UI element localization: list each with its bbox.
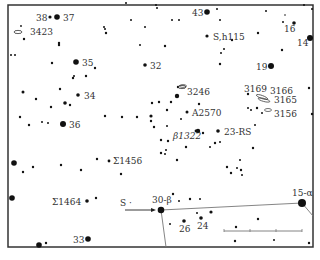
star-icon xyxy=(198,103,200,105)
star-icon xyxy=(169,223,171,225)
object-3165: 3165 xyxy=(274,95,297,105)
star-icon xyxy=(96,158,98,160)
star-icon xyxy=(121,116,123,118)
star-icon xyxy=(172,193,174,195)
star-icon xyxy=(130,19,132,21)
object-label: 43 xyxy=(192,8,204,18)
star-icon xyxy=(54,14,60,20)
star-icon xyxy=(281,49,283,51)
star-icon xyxy=(85,199,89,203)
star-icon xyxy=(216,8,218,10)
star-icon xyxy=(199,216,203,220)
star-icon xyxy=(165,149,167,151)
star-icon xyxy=(236,167,238,169)
star-icon xyxy=(178,19,180,21)
star-icon xyxy=(51,62,53,64)
star-icon xyxy=(125,2,127,4)
star-icon xyxy=(250,109,252,111)
star-icon xyxy=(85,236,91,242)
star-icon xyxy=(85,75,87,77)
star-icon xyxy=(160,139,162,141)
star-icon xyxy=(94,67,96,69)
star-icon xyxy=(120,173,122,175)
star-icon xyxy=(265,10,267,12)
star-icon xyxy=(153,126,155,128)
star-icon xyxy=(235,226,237,228)
star-icon xyxy=(28,124,30,126)
star-icon xyxy=(10,54,12,56)
star-icon xyxy=(14,54,16,56)
star-icon xyxy=(48,15,51,18)
star-icon xyxy=(9,195,15,201)
star-icon xyxy=(234,240,236,242)
star-icon xyxy=(144,26,146,28)
star-icon xyxy=(58,42,60,44)
star-icon xyxy=(257,218,259,220)
star-icon xyxy=(23,38,25,40)
star-icon xyxy=(155,4,157,6)
object-label: A2570 xyxy=(191,108,222,118)
star-icon xyxy=(47,122,49,124)
star-icon xyxy=(50,106,52,108)
object-label: 32 xyxy=(150,61,161,71)
star-icon xyxy=(303,4,305,6)
star-icon xyxy=(273,239,275,241)
star-icon xyxy=(209,146,211,148)
star-icon xyxy=(226,166,228,168)
star-icon xyxy=(311,8,313,10)
star-icon xyxy=(268,63,274,69)
star-icon xyxy=(308,242,310,244)
star-icon xyxy=(76,93,80,97)
star-icon xyxy=(95,197,97,199)
star-icon xyxy=(72,77,74,79)
star-icon xyxy=(20,25,22,27)
star-icon xyxy=(230,172,232,174)
star-icon xyxy=(241,174,243,176)
object-label: 24 xyxy=(197,221,209,231)
object-label: β1322 xyxy=(172,131,201,141)
star-icon xyxy=(196,212,198,214)
star-icon xyxy=(73,59,79,65)
object-label: 14 xyxy=(297,38,309,48)
star-icon xyxy=(219,19,221,21)
star-icon xyxy=(202,132,204,134)
star-icon xyxy=(41,121,43,123)
star-icon xyxy=(22,91,25,94)
star-icon xyxy=(189,198,191,200)
object-label: 35 xyxy=(82,58,94,68)
star-icon xyxy=(176,159,178,161)
star-icon xyxy=(139,44,141,46)
star-icon xyxy=(209,210,212,213)
star-icon xyxy=(149,114,152,117)
star-icon xyxy=(166,125,168,127)
object-label: S · xyxy=(120,198,132,208)
star-icon xyxy=(170,101,172,103)
star-icon xyxy=(22,171,24,173)
star-icon xyxy=(284,14,286,16)
star-icon xyxy=(104,115,106,117)
star-icon xyxy=(60,164,62,166)
object-label: Σ1456 xyxy=(113,156,143,166)
star-icon xyxy=(36,242,42,248)
star-icon xyxy=(240,169,242,171)
star-icon xyxy=(199,198,201,200)
star-icon xyxy=(166,109,168,111)
object-B1322: β1322 xyxy=(172,129,201,141)
object-3169: 3169 xyxy=(244,84,267,95)
star-icon xyxy=(204,9,210,15)
star-icon xyxy=(178,200,180,202)
star-icon xyxy=(151,102,153,104)
star-icon xyxy=(158,101,160,103)
star-icon xyxy=(219,63,221,65)
star-icon xyxy=(216,129,220,133)
star-icon xyxy=(158,207,165,214)
object-label: 3169 xyxy=(244,84,267,94)
object-label: 3156 xyxy=(274,109,297,119)
star-icon xyxy=(186,111,189,114)
star-icon xyxy=(247,107,249,109)
object-label: 23-RS xyxy=(224,127,251,137)
star-icon xyxy=(311,113,313,115)
star-icon xyxy=(45,242,47,244)
object-label: 30-β xyxy=(152,195,172,205)
star-icon xyxy=(150,120,152,122)
